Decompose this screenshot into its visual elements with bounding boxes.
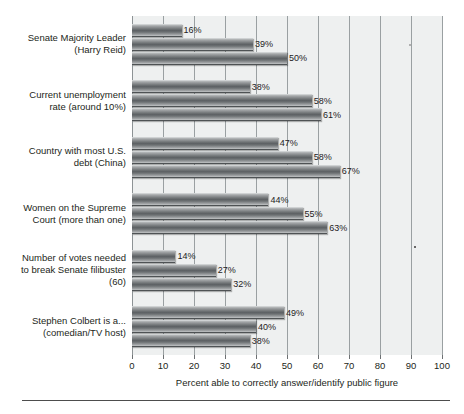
bar-value-label: 38%: [250, 82, 270, 91]
bar[interactable]: [132, 207, 303, 220]
category-label-line: Women on the Supreme: [0, 202, 126, 214]
x-tick-label-60: 60: [313, 360, 324, 371]
bar[interactable]: [132, 250, 175, 263]
x-tick-mark-10: [163, 355, 164, 359]
bar[interactable]: [132, 165, 340, 178]
x-tick-label-20: 20: [189, 360, 200, 371]
x-tick-label-0: 0: [129, 360, 134, 371]
horizontal-bar-chart: 16%39%50%38%58%61%47%58%67%44%55%63%14%2…: [0, 0, 464, 414]
category-label-line: rate (around 10%): [0, 101, 126, 113]
bar-value-label: 58%: [312, 96, 332, 105]
category-label: Number of votes neededto break Senate fi…: [0, 252, 126, 288]
bar[interactable]: [132, 264, 216, 277]
x-tick-mark-100: [442, 355, 443, 359]
x-tick-mark-80: [380, 355, 381, 359]
category-label-line: (60): [0, 276, 126, 288]
bar-group: 44%55%63%: [132, 193, 442, 235]
bar-row: 32%: [132, 278, 442, 291]
bar-row: 58%: [132, 94, 442, 107]
page-speck: [409, 44, 411, 46]
category-label-line: (Harry Reid): [0, 44, 126, 56]
x-tick-mark-50: [287, 355, 288, 359]
bar-row: 38%: [132, 80, 442, 93]
bar-row: 44%: [132, 193, 442, 206]
bar[interactable]: [132, 137, 278, 150]
bar-row: 16%: [132, 24, 442, 37]
bar-value-label: 32%: [231, 280, 251, 289]
bar-row: 55%: [132, 207, 442, 220]
bar[interactable]: [132, 193, 268, 206]
bar-row: 40%: [132, 320, 442, 333]
x-tick-mark-90: [411, 355, 412, 359]
bar-group: 16%39%50%: [132, 24, 442, 66]
bar[interactable]: [132, 94, 312, 107]
bar-row: 49%: [132, 306, 442, 319]
category-label-line: (comedian/TV host): [0, 327, 126, 339]
bar-row: 67%: [132, 165, 442, 178]
bar-row: 27%: [132, 264, 442, 277]
bar-value-label: 40%: [256, 322, 276, 331]
x-tick-mark-30: [225, 355, 226, 359]
bar-value-label: 49%: [284, 308, 304, 317]
bar[interactable]: [132, 306, 284, 319]
bar-value-label: 61%: [321, 110, 341, 119]
bar-row: 38%: [132, 334, 442, 347]
x-tick-mark-70: [349, 355, 350, 359]
bar[interactable]: [132, 24, 182, 37]
x-axis-title: Percent able to correctly answer/identif…: [132, 377, 442, 388]
gridline-70: [349, 16, 350, 355]
category-label-line: Number of votes needed: [0, 252, 126, 264]
bar-value-label: 14%: [175, 252, 195, 261]
gridline-80: [380, 16, 381, 355]
category-label-line: Current unemployment: [0, 89, 126, 101]
x-axis: 0102030405060708090100: [132, 355, 442, 375]
bar-value-label: 38%: [250, 336, 270, 345]
bar-row: 58%: [132, 151, 442, 164]
bottom-divider: [22, 400, 450, 401]
bar[interactable]: [132, 334, 250, 347]
bar[interactable]: [132, 151, 312, 164]
bar[interactable]: [132, 278, 231, 291]
x-tick-label-100: 100: [434, 360, 450, 371]
category-label: Stephen Colbert is a...(comedian/TV host…: [0, 315, 126, 339]
bar-row: 61%: [132, 108, 442, 121]
x-tick-mark-20: [194, 355, 195, 359]
gridline-10: [163, 16, 164, 355]
plot-area: 16%39%50%38%58%61%47%58%67%44%55%63%14%2…: [132, 16, 442, 355]
bar[interactable]: [132, 221, 327, 234]
bar-row: 14%: [132, 250, 442, 263]
bar[interactable]: [132, 108, 321, 121]
bar-value-label: 16%: [182, 26, 202, 35]
bar-value-label: 55%: [303, 209, 323, 218]
gridline-100: [442, 16, 443, 355]
bar-value-label: 63%: [327, 223, 347, 232]
bar-row: 50%: [132, 52, 442, 65]
category-label-line: Senate Majority Leader: [0, 32, 126, 44]
category-label: Country with most U.S.debt (China): [0, 145, 126, 169]
bar[interactable]: [132, 80, 250, 93]
bar-row: 47%: [132, 137, 442, 150]
page-speck: [414, 246, 416, 248]
bar-value-label: 47%: [278, 139, 298, 148]
gridline-40: [256, 16, 257, 355]
x-tick-label-80: 80: [375, 360, 386, 371]
category-label-line: debt (China): [0, 157, 126, 169]
x-tick-mark-60: [318, 355, 319, 359]
bar[interactable]: [132, 52, 287, 65]
bar-group: 38%58%61%: [132, 80, 442, 122]
bar-group: 47%58%67%: [132, 137, 442, 179]
category-label-line: Court (more than one): [0, 214, 126, 226]
x-tick-label-70: 70: [344, 360, 355, 371]
bar-row: 39%: [132, 38, 442, 51]
bar-value-label: 58%: [312, 153, 332, 162]
x-tick-label-50: 50: [282, 360, 293, 371]
bar[interactable]: [132, 38, 253, 51]
bar-row: 63%: [132, 221, 442, 234]
bar[interactable]: [132, 320, 256, 333]
category-label: Senate Majority Leader(Harry Reid): [0, 32, 126, 56]
x-tick-label-30: 30: [220, 360, 231, 371]
gridline-20: [194, 16, 195, 355]
bar-group: 49%40%38%: [132, 306, 442, 348]
bar-value-label: 44%: [268, 195, 288, 204]
x-tick-label-40: 40: [251, 360, 262, 371]
